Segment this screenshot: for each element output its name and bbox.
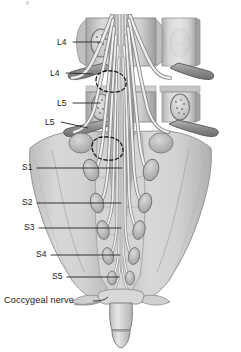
figure-canvas: L4 L4 L5 L5 S1 S2 S3 S4 S5 Coccygeal ner… xyxy=(0,0,241,352)
facet-l5-right xyxy=(171,94,190,120)
label-s4: S4 xyxy=(36,250,47,259)
coccyx-segment-2 xyxy=(112,330,130,348)
ganglion-l5-right xyxy=(149,133,173,153)
ganglion-l5-left xyxy=(69,133,93,153)
coccyx-segment-1 xyxy=(110,303,133,330)
foramen-s5-left xyxy=(108,271,117,285)
label-s3: S3 xyxy=(24,223,35,232)
label-l4-nerve: L4 xyxy=(50,69,60,78)
label-l5-body: L5 xyxy=(57,99,67,108)
artifact-mark xyxy=(26,1,29,5)
coccyx-group xyxy=(72,289,170,348)
foramen-s5-right xyxy=(126,271,135,285)
label-s1: S1 xyxy=(22,163,33,172)
sacral-horn-right xyxy=(142,295,170,305)
label-coccygeal-nerve: Coccygeal nerve xyxy=(4,296,74,305)
label-s5: S5 xyxy=(52,272,63,281)
label-s2: S2 xyxy=(22,198,33,207)
label-l4-body: L4 xyxy=(57,38,67,47)
vertebra-l4-block-right xyxy=(162,18,196,66)
sacral-hiatus xyxy=(98,289,144,304)
label-l5-nerve: L5 xyxy=(45,118,55,127)
